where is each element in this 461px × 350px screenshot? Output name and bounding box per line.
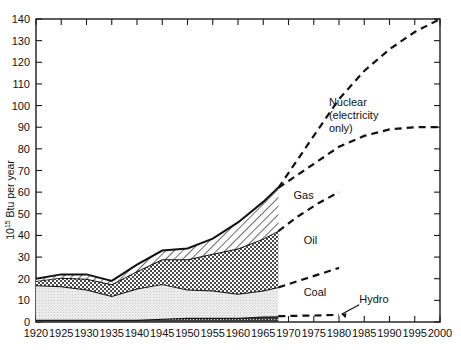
series-annotations: Nuclear(electricityonly)GasOilCoalHydro [294,96,389,319]
y-tick-label: 140 [12,13,30,25]
projection-lines [278,19,440,316]
x-tick-label: 2000 [428,327,452,339]
y-tick-label: 120 [12,56,30,68]
projection-total-without-nuclear [278,127,440,188]
y-tick-label: 20 [18,273,30,285]
y-tick-label: 30 [18,251,30,263]
projection-oil [278,268,339,287]
x-tick-label: 1995 [403,327,427,339]
y-tick-label: 40 [18,229,30,241]
y-tick-label: 50 [18,208,30,220]
y-tick-label: 110 [12,78,30,90]
x-tick-label: 1950 [175,327,199,339]
energy-consumption-chart: 0102030405060708090100110120130140 19201… [0,0,461,350]
svg-text:1015 Btu per year: 1015 Btu per year [4,160,16,240]
annotation-nuclear: Nuclear(electricityonly) [329,96,379,134]
x-tick-label: 1965 [251,327,275,339]
y-axis-exponent: 15 [4,220,11,228]
y-tick-label: 130 [12,35,30,47]
x-tick-label: 1955 [201,327,225,339]
y-axis-unit-text: Btu per year [4,160,16,218]
x-tick-label: 1920 [24,327,48,339]
y-tick-label: 100 [12,100,30,112]
x-tick-label: 1925 [49,327,73,339]
y-tick-label: 70 [18,165,30,177]
y-tick-label: 10 [18,294,30,306]
y-tick-label: 90 [18,121,30,133]
x-tick-label: 1935 [100,327,124,339]
x-tick-label: 1945 [150,327,174,339]
y-tick-label: 80 [18,143,30,155]
y-axis-title: 1015 Btu per year [4,160,16,240]
x-tick-label: 1980 [327,327,351,339]
x-tick-label: 1940 [125,327,149,339]
hydro-pointer-arrow [342,305,360,315]
x-tick-label: 1970 [276,327,300,339]
annotation-hydro: Hydro [359,293,388,305]
x-tick-label: 1960 [226,327,250,339]
y-axis-mantissa: 10 [4,228,16,240]
x-tick-label: 1990 [377,327,401,339]
x-tick-label: 1930 [74,327,98,339]
annotation-gas: Gas [294,189,315,201]
annotation-oil: Oil [304,234,317,246]
x-tick-label: 1975 [302,327,326,339]
y-tick-label: 60 [18,186,30,198]
annotation-coal: Coal [304,286,327,298]
chart-canvas: 0102030405060708090100110120130140 19201… [0,0,461,350]
stacked-areas [36,187,278,322]
projection-hydro [278,315,339,316]
x-tick-label: 1985 [352,327,376,339]
